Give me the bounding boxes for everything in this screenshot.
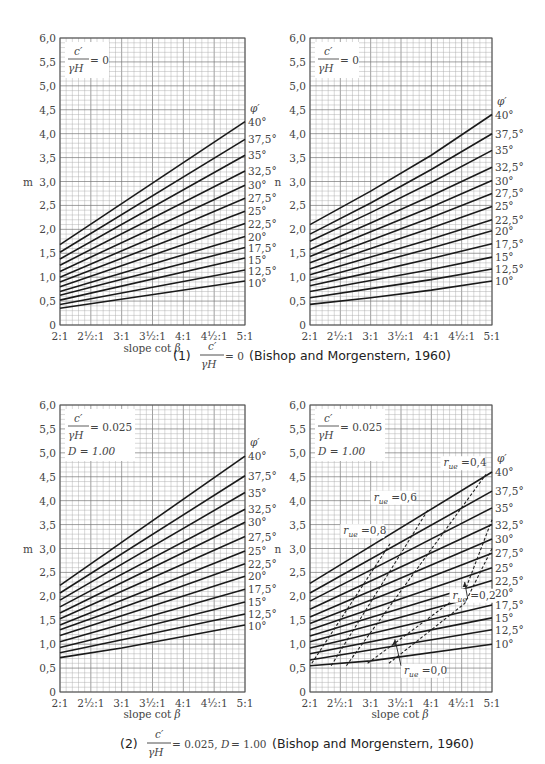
x-tick-label: 2½:1	[77, 697, 104, 709]
y-tick-label: 5,5	[39, 56, 56, 68]
x-tick-label: 3:1	[113, 330, 130, 342]
y-tick-label: 2,5	[289, 199, 306, 211]
x-tick-label: 2:1	[52, 697, 69, 709]
x-tick-label: 2:1	[52, 330, 69, 342]
svg-text:γH: γH	[68, 62, 84, 74]
legend-label: 25°	[495, 562, 514, 574]
legend-label: 35°	[495, 144, 514, 156]
legend-label: 22,5°	[495, 575, 524, 587]
y-tick-label: 5,5	[39, 423, 56, 435]
y-tick-label: 4,0	[289, 495, 306, 507]
legend-label: 17,5°	[495, 599, 524, 611]
y-tick-label: 5,0	[39, 80, 56, 92]
legend-title: φ′	[250, 436, 260, 448]
legend-label: 22,5°	[248, 558, 277, 570]
legend-label: 35°	[495, 502, 514, 514]
parameter-box: c′γH= 0.025D = 1.00	[65, 409, 135, 461]
caption-2: (2) c′ γH = 0.025, D = 1.00 (Bishop and …	[120, 728, 474, 758]
y-tick-label: 0,5	[39, 295, 56, 307]
y-tick-label: 3,0	[39, 176, 56, 188]
y-tick-label: 3,5	[289, 519, 306, 531]
x-axis-label: slope cot β	[123, 708, 180, 720]
x-tick-label: 4½:1	[201, 697, 228, 709]
grid	[310, 38, 492, 325]
legend-label: 27,5°	[248, 531, 277, 543]
phi-legend: φ′40°37,5°35°32,5°30°27,5°25°22,5°20°17,…	[248, 102, 277, 289]
y-axis-ticks: 00,51,01,52,02,53,03,54,04,55,05,56,0	[289, 399, 306, 698]
x-tick-label: 4:1	[423, 330, 440, 342]
y-tick-label: 6,0	[289, 399, 306, 411]
parameter-box: c′γH= 0	[315, 42, 359, 78]
legend-label: 32,5°	[495, 519, 524, 531]
caption-2-num: c′	[155, 728, 164, 740]
y-tick-label: 1,0	[39, 638, 56, 650]
legend-title: φ′	[250, 102, 260, 114]
y-tick-label: 5,5	[289, 56, 306, 68]
legend-label: 15°	[248, 254, 267, 266]
legend-label: 10°	[248, 277, 267, 289]
caption-1-num: c′	[208, 340, 217, 352]
y-tick-label: 0,5	[39, 662, 56, 674]
x-tick-label: 3:1	[362, 330, 379, 342]
legend-label: 35°	[248, 149, 267, 161]
legend-label: 20°	[248, 231, 267, 243]
parameter-box: c′γH= 0.025D = 1.00	[315, 409, 385, 461]
y-tick-label: 3,5	[39, 152, 56, 164]
legend-title: φ′	[497, 452, 507, 464]
x-axis-ticks: 2:12½:13:13½:14:14½:15:1	[52, 330, 254, 342]
legend-label: 15°	[495, 251, 514, 263]
parameter-box: c′γH= 0	[65, 42, 109, 78]
svg-text:c′: c′	[324, 45, 333, 57]
x-tick-label: 5:1	[484, 330, 501, 342]
x-tick-label: 4:1	[175, 330, 192, 342]
x-axis-label: slope cot β	[371, 708, 428, 720]
legend-label: 27,5°	[248, 192, 277, 204]
y-tick-label: 2,0	[39, 223, 56, 235]
svg-text:c′: c′	[324, 412, 333, 424]
caption-1-eq: = 0	[225, 350, 244, 362]
phi-legend: φ′40°37,5°35°32,5°30°27,5°25°22,5°20°17,…	[495, 452, 524, 650]
legend-label: 37,5°	[248, 470, 277, 482]
chart-m-c0: 00,51,01,52,02,53,03,54,04,55,05,56,02:1…	[23, 32, 277, 354]
y-tick-label: 1,5	[289, 247, 306, 259]
y-tick-label: 1,5	[39, 247, 56, 259]
chart-n-c0025: 00,51,01,52,02,53,03,54,04,55,05,56,02:1…	[275, 399, 524, 720]
rue-line	[346, 474, 486, 665]
legend-label: 32,5°	[495, 161, 524, 173]
x-tick-label: 4½:1	[448, 697, 475, 709]
chart-n-c0: 00,51,01,52,02,53,03,54,04,55,05,56,02:1…	[275, 32, 524, 342]
x-tick-label: 5:1	[484, 697, 501, 709]
caption-2-eq: = 0.025,	[172, 738, 218, 750]
y-tick-label: 4,5	[39, 104, 56, 116]
svg-text:= 0: = 0	[340, 54, 359, 66]
legend-label: 20°	[495, 225, 514, 237]
legend-label: 37,5°	[495, 485, 524, 497]
y-axis-ticks: 00,51,01,52,02,53,03,54,04,55,05,56,0	[39, 32, 56, 331]
y-tick-label: 4,0	[39, 128, 56, 140]
y-tick-label: 4,0	[39, 495, 56, 507]
legend-title: φ′	[497, 95, 507, 107]
svg-text:γH: γH	[318, 429, 334, 441]
x-tick-label: 3½:1	[139, 330, 166, 342]
caption-2-d: D	[220, 738, 230, 750]
legend-label: 20°	[495, 587, 514, 599]
y-tick-label: 4,5	[289, 471, 306, 483]
caption-2-source: (Bishop and Morgenstern, 1960)	[272, 736, 474, 751]
y-tick-label: 5,0	[289, 447, 306, 459]
chart-m-c0025: 00,51,01,52,02,53,03,54,04,55,05,56,02:1…	[23, 399, 277, 720]
legend-label: 27,5°	[495, 547, 524, 559]
y-tick-label: 1,5	[39, 614, 56, 626]
legend-label: 12,5°	[495, 624, 524, 636]
y-tick-label: 5,0	[39, 447, 56, 459]
svg-text:c′: c′	[74, 412, 83, 424]
y-tick-label: 4,5	[289, 104, 306, 116]
y-tick-label: 5,5	[289, 423, 306, 435]
legend-label: 10°	[248, 620, 267, 632]
svg-text:D = 1.00: D = 1.00	[67, 445, 116, 457]
y-tick-label: 1,0	[39, 271, 56, 283]
caption-2-d-eq: = 1.00	[231, 738, 267, 750]
legend-label: 17,5°	[248, 242, 277, 254]
legend-label: 25°	[248, 205, 267, 217]
legend-label: 30°	[248, 516, 267, 528]
phi-legend: φ′40°37,5°35°32,5°30°27,5°25°22,5°20°17,…	[248, 436, 277, 631]
